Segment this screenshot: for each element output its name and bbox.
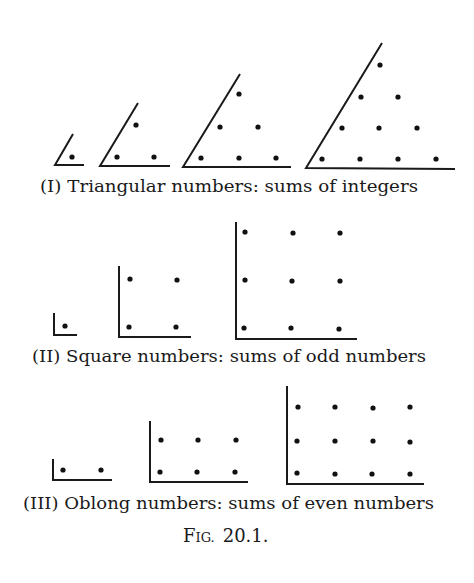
figure-label-prefix-big: F — [183, 525, 196, 546]
dot — [407, 471, 412, 476]
dot — [98, 467, 103, 472]
dot — [233, 437, 238, 442]
oblong-figure-2 — [150, 421, 248, 482]
triangular-figure-3 — [183, 74, 291, 167]
dot — [62, 323, 67, 328]
dot — [332, 404, 337, 409]
dot — [294, 438, 299, 443]
dot — [273, 155, 278, 160]
triangle-frame — [306, 43, 455, 169]
dot — [332, 471, 337, 476]
dot — [242, 277, 247, 282]
dot — [157, 469, 162, 474]
dot — [158, 437, 163, 442]
dot — [332, 438, 337, 443]
caption-triangular: (I) Triangular numbers: sums of integers — [40, 177, 418, 196]
dot — [395, 94, 400, 99]
dot — [407, 404, 412, 409]
dot — [370, 405, 375, 410]
dot — [217, 124, 222, 129]
square-figure-1 — [54, 313, 77, 335]
dot — [290, 230, 295, 235]
dot — [433, 156, 438, 161]
triangular-figure-2 — [100, 103, 170, 166]
dot — [288, 325, 293, 330]
dot — [195, 437, 200, 442]
figure-20-1: (I) Triangular numbers: sums of integers — [0, 0, 474, 583]
caption-square: (II) Square numbers: sums of odd numbers — [32, 347, 426, 366]
dot — [151, 154, 156, 159]
dot — [358, 94, 363, 99]
dot — [236, 155, 241, 160]
dot — [173, 324, 178, 329]
dot — [369, 471, 374, 476]
dot — [194, 469, 199, 474]
panel-square: (II) Square numbers: sums of odd numbers — [32, 222, 426, 366]
dot — [60, 467, 65, 472]
dot — [241, 325, 246, 330]
oblong-figure-1 — [53, 459, 112, 480]
triangle-frame — [100, 103, 170, 166]
dot — [127, 276, 132, 281]
caption-oblong: (III) Oblong numbers: sums of even numbe… — [23, 494, 434, 513]
dot — [289, 278, 294, 283]
oblong-frame — [287, 386, 424, 484]
dot — [319, 156, 324, 161]
dot — [407, 439, 412, 444]
dot — [126, 324, 131, 329]
dot — [295, 404, 300, 409]
dot — [174, 277, 179, 282]
dot — [339, 125, 344, 130]
dot — [69, 154, 74, 159]
dot — [377, 62, 382, 67]
dot — [414, 125, 419, 130]
oblong-figure-3 — [287, 386, 424, 484]
dot — [133, 122, 138, 127]
dot — [336, 326, 341, 331]
dot — [337, 230, 342, 235]
square-figure-3 — [236, 222, 357, 339]
triangle-frame — [183, 74, 291, 167]
dot — [370, 438, 375, 443]
panel-triangular: (I) Triangular numbers: sums of integers — [40, 43, 455, 196]
dot — [232, 469, 237, 474]
triangle-frame — [55, 134, 84, 165]
triangular-figure-4 — [306, 43, 455, 169]
dot — [395, 156, 400, 161]
figure-label: FIG.20.1. — [183, 525, 269, 546]
triangular-figure-1 — [55, 134, 84, 165]
dot — [357, 156, 362, 161]
dot — [255, 124, 260, 129]
figure-label-number: 20.1. — [223, 525, 269, 546]
dot — [294, 470, 299, 475]
panel-oblong: (III) Oblong numbers: sums of even numbe… — [23, 386, 434, 513]
figure-label-prefix-small: IG. — [196, 530, 215, 545]
dot — [198, 155, 203, 160]
dot — [376, 125, 381, 130]
dot — [242, 229, 247, 234]
dot — [114, 154, 119, 159]
square-figure-2 — [119, 266, 191, 337]
dot — [236, 91, 241, 96]
dot — [337, 278, 342, 283]
